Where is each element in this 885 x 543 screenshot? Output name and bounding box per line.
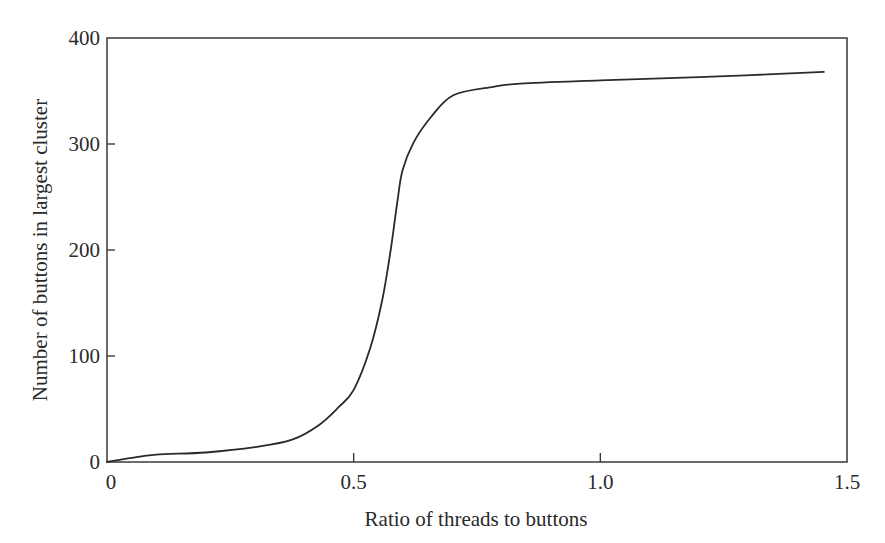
y-tick-label: 0 xyxy=(90,450,101,474)
x-tick-labels: 00.51.01.5 xyxy=(106,470,860,494)
chart: 00.51.01.5 0100200300400 Ratio of thread… xyxy=(0,0,885,543)
plot-border xyxy=(107,38,847,462)
x-tick-label: 1.5 xyxy=(834,470,860,494)
y-tick-label: 400 xyxy=(69,26,101,50)
y-tick-labels: 0100200300400 xyxy=(69,26,101,474)
data-curve xyxy=(107,72,824,462)
x-tick-label: 0.5 xyxy=(341,470,367,494)
axis-ticks xyxy=(107,144,600,462)
y-tick-label: 100 xyxy=(69,344,101,368)
y-axis-title: Number of buttons in largest cluster xyxy=(28,99,52,401)
x-axis-title: Ratio of threads to buttons xyxy=(365,507,588,531)
plot-frame xyxy=(107,38,847,462)
y-tick-label: 300 xyxy=(69,132,101,156)
line-chart: 00.51.01.5 0100200300400 Ratio of thread… xyxy=(0,0,885,543)
x-tick-label: 0 xyxy=(106,470,117,494)
x-tick-label: 1.0 xyxy=(587,470,613,494)
y-tick-label: 200 xyxy=(69,238,101,262)
